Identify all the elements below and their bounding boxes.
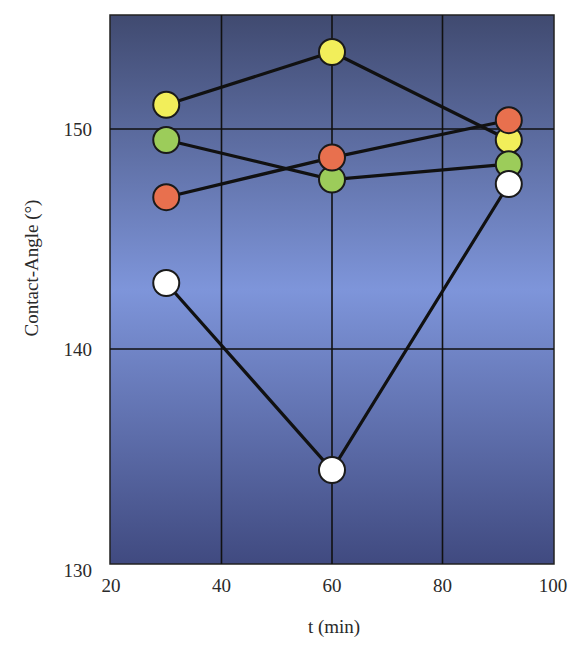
- data-point-green: [153, 127, 179, 153]
- chart: 20406080100 130140150 t (min) Contact-An…: [0, 0, 577, 651]
- y-tick-label: 150: [64, 119, 93, 140]
- x-tick-label: 80: [433, 575, 452, 596]
- data-point-white: [496, 171, 522, 197]
- y-tick-label: 130: [64, 560, 93, 581]
- data-point-yellow: [153, 92, 179, 118]
- x-axis-label: t (min): [308, 616, 360, 638]
- data-point-white: [153, 270, 179, 296]
- x-axis-ticks: 20406080100: [102, 575, 568, 596]
- y-tick-label: 140: [64, 339, 93, 360]
- data-point-orange: [496, 107, 522, 133]
- data-point-orange: [153, 184, 179, 210]
- x-tick-label: 60: [323, 575, 342, 596]
- x-tick-label: 20: [102, 575, 121, 596]
- x-tick-label: 100: [539, 575, 568, 596]
- data-point-orange: [319, 145, 345, 171]
- x-tick-label: 40: [212, 575, 231, 596]
- data-point-yellow: [319, 39, 345, 65]
- data-point-white: [319, 457, 345, 483]
- y-axis-ticks: 130140150: [64, 119, 93, 581]
- y-axis-label: Contact-Angle (°): [21, 200, 43, 337]
